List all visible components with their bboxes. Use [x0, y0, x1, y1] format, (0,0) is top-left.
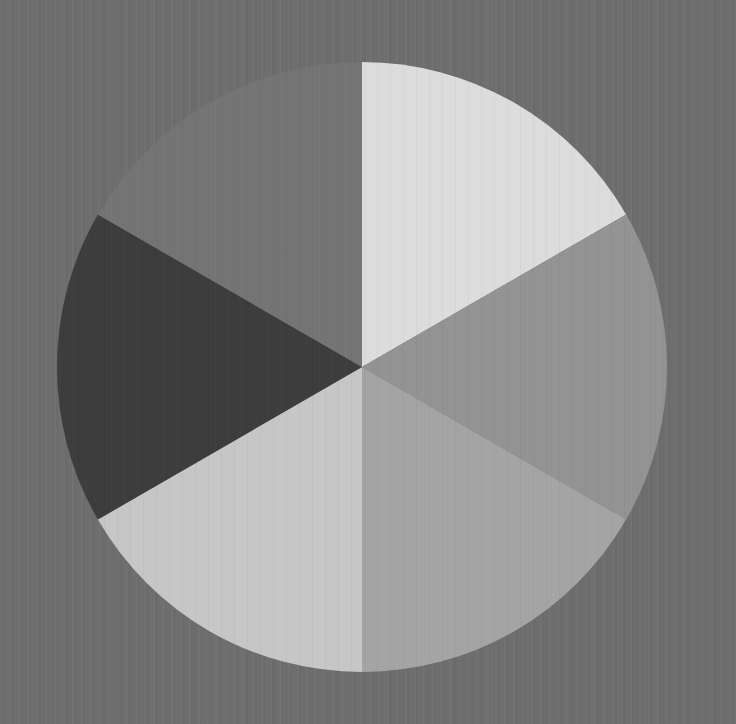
pie-chart-canvas: [0, 0, 736, 724]
pie-chart: [0, 0, 736, 724]
